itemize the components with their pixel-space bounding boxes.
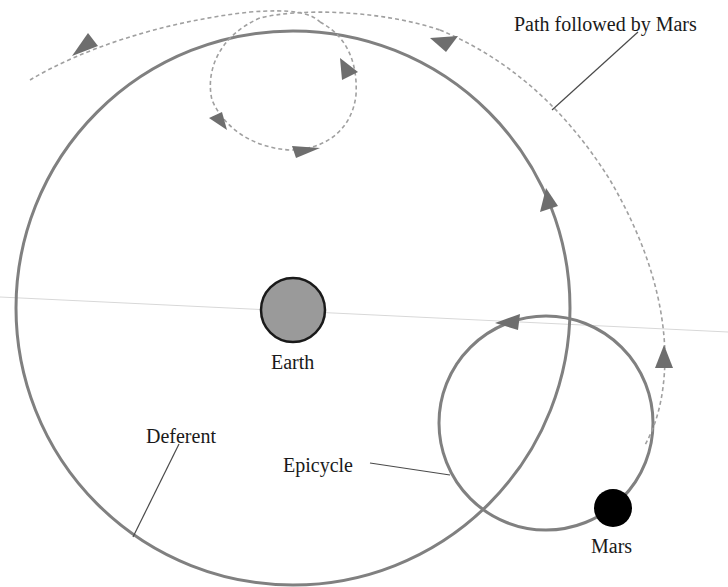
leader-deferent <box>133 444 179 537</box>
leader-path <box>552 32 638 110</box>
earth-icon <box>261 278 325 342</box>
label-deferent: Deferent <box>146 426 216 446</box>
leader-lines <box>133 32 638 537</box>
arrow-loop-left-icon <box>209 112 227 130</box>
leader-epicycle <box>370 463 450 475</box>
label-path-followed-by-mars: Path followed by Mars <box>514 14 697 34</box>
label-earth: Earth <box>271 352 314 372</box>
arrow-loop-right-icon <box>340 58 358 80</box>
circle-arrows <box>495 188 558 330</box>
arrow-path-left-icon <box>72 33 98 56</box>
arrow-path-top-icon <box>430 36 458 52</box>
arrow-loop-bottom-icon <box>292 146 320 158</box>
reference-line <box>0 297 728 332</box>
label-mars: Mars <box>591 536 632 556</box>
label-epicycle: Epicycle <box>283 455 353 475</box>
arrow-path-right-icon <box>655 345 673 368</box>
path-arrows <box>72 33 673 368</box>
diagram-canvas <box>0 0 728 587</box>
arrow-deferent-icon <box>540 188 558 212</box>
mars-icon <box>594 489 632 527</box>
